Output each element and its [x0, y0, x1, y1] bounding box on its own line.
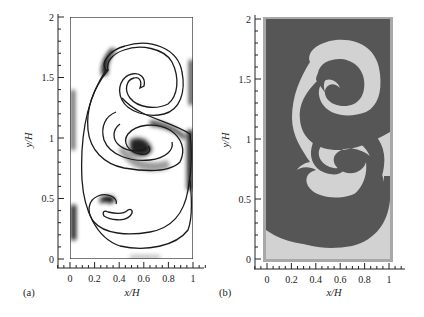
y-tick-label: 1: [49, 133, 54, 144]
x-tick-label: 1: [191, 273, 196, 284]
x-tick-label: 0.2: [285, 274, 298, 285]
panel-b-x-axis-label: x/H: [325, 287, 343, 298]
y-tick-label: 1.5: [239, 74, 252, 85]
panel-a-y-axis: [58, 14, 64, 268]
panel-a-y-axis-label: y/H: [23, 131, 34, 149]
panel-b-plot: [266, 19, 390, 259]
panel-a-x-axis: [57, 262, 205, 268]
panel-b-x-axis: [254, 263, 405, 269]
y-tick-label: 0: [246, 254, 251, 265]
y-tick-label: 1.5: [42, 72, 55, 83]
panel-a-x-axis-label: x/H: [123, 287, 141, 298]
x-tick-label: 0.8: [162, 273, 175, 284]
panel-a: 00.511.52 00.20.40.60.81 x/H y/H (a): [23, 12, 205, 300]
x-tick-label: 0: [265, 274, 270, 285]
y-tick-label: 2: [49, 12, 54, 23]
x-tick-label: 0.4: [113, 273, 126, 284]
x-tick-label: 1: [387, 274, 392, 285]
y-tick-label: 0.5: [42, 193, 55, 204]
panel-a-background: [70, 17, 193, 259]
x-tick-label: 0.6: [138, 273, 151, 284]
x-tick-label: 0.4: [310, 274, 323, 285]
x-tick-label: 0: [68, 273, 73, 284]
panel-b: 00.511.52 00.20.40.60.81 x/H y/H (b): [219, 14, 405, 300]
panel-a-plot: [70, 17, 193, 259]
panel-b-label: (b): [219, 287, 232, 299]
y-tick-label: 0.5: [239, 194, 252, 205]
y-tick-label: 0: [49, 254, 54, 265]
x-tick-label: 0.6: [334, 274, 347, 285]
panel-a-label: (a): [23, 287, 35, 299]
panel-b-y-axis-label: y/H: [220, 131, 231, 149]
figure: 00.511.52 00.20.40.60.81 x/H y/H (a) 0: [0, 0, 424, 317]
x-tick-label: 0.2: [88, 273, 101, 284]
panel-b-y-axis: [255, 15, 261, 269]
y-tick-label: 2: [246, 14, 251, 25]
x-tick-label: 0.8: [358, 274, 371, 285]
y-tick-label: 1: [246, 134, 251, 145]
